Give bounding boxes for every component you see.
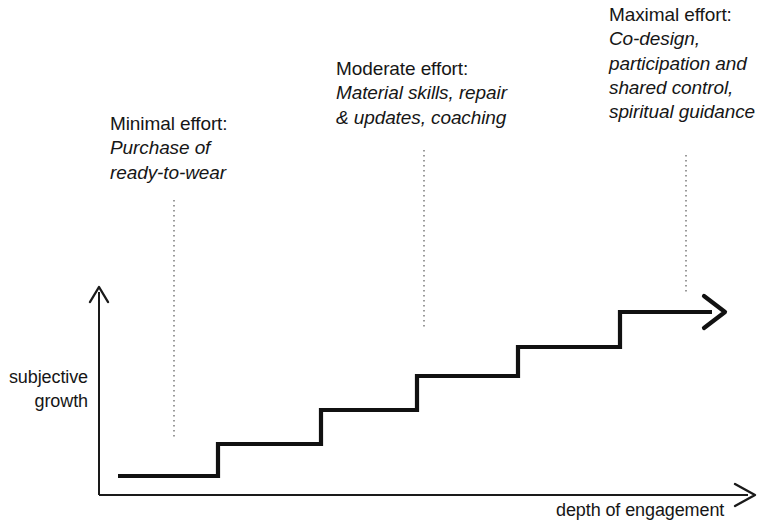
annotation-minimal-title: Minimal effort: xyxy=(110,112,227,136)
y-axis-label-line-1: subjective xyxy=(0,366,88,390)
annotation-maximal-effort: Maximal effort: Co-design, participation… xyxy=(609,3,755,125)
y-axis-label-line-2: growth xyxy=(0,390,88,414)
diagram-canvas: Minimal effort: Purchase of ready-to-wea… xyxy=(0,0,771,529)
annotation-maximal-body: Co-design, participation and shared cont… xyxy=(609,27,755,124)
annotation-maximal-line-2: participation and xyxy=(609,52,755,76)
annotation-maximal-line-3: shared control, xyxy=(609,76,755,100)
annotation-minimal-line-2: ready-to-wear xyxy=(110,161,227,185)
staircase-curve xyxy=(118,296,725,476)
annotation-maximal-title: Maximal effort: xyxy=(609,3,755,27)
y-axis-label: subjective growth xyxy=(0,366,88,414)
annotation-minimal-body: Purchase of ready-to-wear xyxy=(110,136,227,185)
annotation-moderate-body: Material skills, repair & updates, coach… xyxy=(336,81,507,130)
annotation-minimal-line-1: Purchase of xyxy=(110,136,227,160)
annotation-moderate-line-2: & updates, coaching xyxy=(336,106,507,130)
y-axis xyxy=(90,287,108,495)
annotation-maximal-line-1: Co-design, xyxy=(609,27,755,51)
annotation-moderate-effort: Moderate effort: Material skills, repair… xyxy=(336,57,507,130)
annotation-maximal-line-4: spiritual guidance xyxy=(609,100,755,124)
x-axis-label: depth of engagement xyxy=(556,500,724,521)
annotation-moderate-title: Moderate effort: xyxy=(336,57,507,81)
annotation-moderate-line-1: Material skills, repair xyxy=(336,81,507,105)
annotation-minimal-effort: Minimal effort: Purchase of ready-to-wea… xyxy=(110,112,227,185)
